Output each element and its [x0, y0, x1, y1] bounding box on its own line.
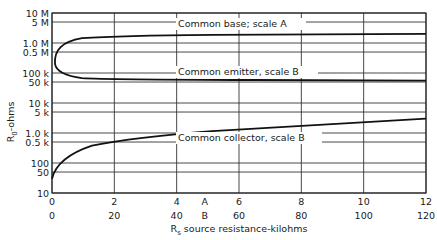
x-tick-label-b: 60	[233, 210, 245, 221]
y-tick-label: 0.5 M	[23, 47, 49, 58]
y-tick-label: 10	[37, 188, 49, 199]
curve-common-base	[55, 34, 426, 64]
scale-b-label: B	[201, 210, 208, 221]
y-tick-label: 0.5 k	[25, 137, 49, 148]
y-axis-ticks: 10 M5 M1.0 M0.5 M100 k50 k10 k5 k1.0 k0.…	[22, 8, 49, 199]
resistance-chart: 10 M5 M1.0 M0.5 M100 k50 k10 k5 k1.0 k0.…	[0, 0, 437, 240]
x-tick-label-a: 6	[236, 196, 242, 207]
y-tick-label: 5 k	[34, 107, 49, 118]
y-tick-label: 5 M	[32, 17, 49, 28]
x-tick-label-b: 80	[295, 210, 307, 221]
x-axis-label: Rs source resistance-kilohms	[171, 223, 308, 237]
grid-lines	[52, 13, 426, 193]
x-tick-label-a: 8	[298, 196, 304, 207]
x-tick-label-a: 12	[420, 196, 432, 207]
x-tick-label-b: 100	[355, 210, 373, 221]
svg-text:R0-ohms: R0-ohms	[5, 102, 19, 143]
y-axis-label: R0-ohms	[5, 102, 19, 143]
x-tick-label-b: 40	[171, 210, 183, 221]
curve-label-common-emitter: Common emitter, scale B	[178, 66, 299, 77]
scale-a-label: A	[201, 196, 208, 207]
y-tick-label: 50 k	[28, 77, 49, 88]
curve-label-common-collector: Common collector, scale B	[178, 132, 305, 143]
x-tick-label-a: 2	[111, 196, 117, 207]
x-tick-label-b: 0	[49, 210, 55, 221]
x-axis-ticks: 002204406608801010012120AB	[49, 196, 435, 221]
x-tick-label-b: 20	[108, 210, 120, 221]
curve-label-common-base: Common base; scale A	[178, 18, 287, 29]
x-tick-label-a: 4	[174, 196, 180, 207]
x-tick-label-b: 120	[417, 210, 435, 221]
y-tick-label: 50	[37, 167, 49, 178]
x-tick-label-a: 0	[49, 196, 55, 207]
y-label-rest: -ohms	[5, 102, 16, 132]
x-tick-label-a: 10	[358, 196, 370, 207]
x-label-rest: source resistance-kilohms	[181, 223, 308, 234]
